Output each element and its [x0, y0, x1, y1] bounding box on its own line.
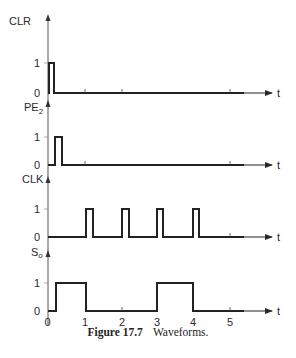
clr-level-1: 1 [34, 57, 40, 69]
s0-waveform [48, 283, 244, 311]
clr-axis-arrow-icon [46, 14, 51, 21]
clr-waveform [48, 63, 244, 93]
channel-s0: So 1 0 t 0 1 2 3 4 5 [31, 246, 280, 328]
s0-axis-arrow-icon [46, 250, 51, 257]
clk-axis-arrow-icon [46, 176, 51, 183]
clk-label: CLK [22, 173, 44, 185]
pe2-level-1: 1 [34, 131, 40, 143]
clk-time-label: t [277, 231, 280, 243]
figure-caption: Figure 17.7Waveforms. [0, 326, 296, 338]
clr-level-0: 0 [34, 87, 40, 99]
figure-number: Figure 17.7 [88, 326, 143, 338]
figure-title: Waveforms. [153, 326, 209, 338]
s0-label: So [31, 246, 43, 260]
pe2-waveform [48, 137, 244, 165]
channel-clr: CLR 1 0 t [9, 15, 280, 99]
channel-pe2: PE2 1 0 t [24, 101, 280, 171]
clk-level-1: 1 [34, 203, 40, 215]
timing-diagram: CLR 1 0 t PE2 1 0 t CLK 1 0 t So 1 0 [0, 0, 296, 358]
clr-time-label: t [277, 87, 280, 99]
s0-level-0: 0 [34, 305, 40, 317]
channel-clk: CLK 1 0 t [22, 173, 280, 243]
s0-time-label: t [277, 305, 280, 317]
clk-waveform [48, 209, 244, 237]
s0-level-1: 1 [34, 277, 40, 289]
pe2-time-label: t [277, 159, 280, 171]
clr-label: CLR [9, 15, 31, 27]
clk-level-0: 0 [34, 231, 40, 243]
pe2-level-0: 0 [34, 159, 40, 171]
pe2-label: PE2 [24, 101, 44, 116]
pe2-axis-arrow-icon [46, 100, 51, 107]
